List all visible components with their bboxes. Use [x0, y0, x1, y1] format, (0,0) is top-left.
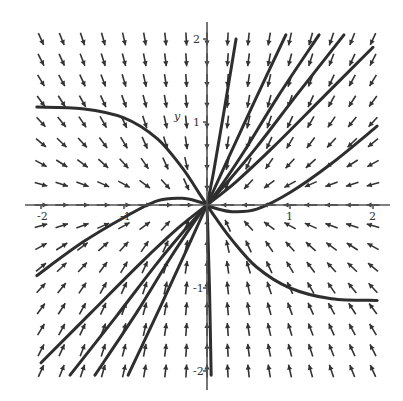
field-arrow-icon — [307, 262, 315, 272]
field-arrow-icon — [370, 54, 376, 66]
field-arrow-icon — [369, 303, 377, 314]
field-arrow-icon — [38, 54, 44, 66]
field-arrow-icon — [101, 344, 106, 356]
field-arrow-icon — [329, 365, 334, 377]
field-arrow-icon — [163, 323, 168, 336]
field-arrow-icon — [143, 116, 148, 128]
field-arrow-icon — [368, 139, 378, 147]
field-arrow-icon — [76, 223, 88, 228]
x-tick-label: 1 — [286, 210, 293, 223]
field-arrow-icon — [184, 344, 189, 357]
field-arrow-icon — [99, 262, 107, 272]
field-arrow-icon — [122, 344, 127, 357]
field-arrow-icon — [77, 160, 87, 168]
field-arrow-icon — [56, 160, 67, 167]
field-arrow-icon — [163, 95, 168, 108]
field-arrow-icon — [347, 160, 358, 167]
field-arrow-icon — [121, 282, 127, 294]
field-arrow-icon — [308, 303, 314, 315]
field-arrow-icon — [287, 137, 294, 148]
field-arrow-icon — [79, 96, 85, 107]
field-arrow-icon — [287, 365, 292, 378]
field-arrow-icon — [59, 33, 64, 45]
field-arrow-icon — [370, 324, 377, 335]
field-arrow-icon — [35, 182, 48, 187]
field-arrow-icon — [98, 159, 108, 168]
y-tick-label: 1 — [193, 116, 200, 129]
field-arrow-icon — [122, 53, 127, 66]
field-arrow-icon — [328, 303, 334, 314]
field-arrow-icon — [367, 243, 378, 249]
field-arrow-icon — [97, 182, 109, 188]
field-arrow-icon — [286, 242, 295, 252]
x-tick-label: -2 — [37, 210, 48, 223]
field-arrow-icon — [225, 302, 230, 315]
field-arrow-icon — [329, 324, 335, 336]
field-arrow-icon — [308, 95, 314, 107]
field-arrow-icon — [35, 243, 46, 249]
field-arrow-icon — [244, 221, 253, 231]
field-arrow-icon — [308, 54, 313, 66]
field-arrow-icon — [308, 365, 313, 378]
field-arrow-icon — [349, 96, 356, 107]
field-arrow-icon — [287, 262, 294, 273]
field-arrow-icon — [246, 53, 251, 66]
field-arrow-icon — [161, 221, 170, 231]
field-arrow-icon — [225, 136, 230, 149]
field-arrow-icon — [305, 223, 317, 229]
field-arrow-icon — [327, 138, 336, 148]
field-arrow-icon — [328, 117, 335, 128]
field-arrow-icon — [59, 324, 65, 335]
field-arrow-icon — [38, 344, 44, 356]
field-arrow-icon — [346, 182, 358, 187]
field-arrow-icon — [184, 282, 189, 295]
field-arrow-icon — [349, 33, 354, 45]
field-arrow-icon — [266, 137, 272, 149]
field-arrow-icon — [140, 180, 150, 188]
field-arrow-icon — [37, 117, 46, 127]
field-arrow-icon — [246, 282, 251, 295]
field-arrow-icon — [349, 75, 355, 86]
field-arrow-icon — [266, 323, 271, 336]
field-arrow-icon — [184, 95, 189, 108]
field-arrow-icon — [287, 323, 292, 335]
field-arrow-icon — [246, 261, 251, 273]
field-arrow-icon — [143, 282, 148, 294]
field-arrow-icon — [80, 33, 85, 45]
field-arrow-icon — [38, 75, 45, 86]
field-arrow-icon — [35, 160, 46, 166]
field-arrow-icon — [37, 283, 46, 293]
field-arrow-icon — [306, 159, 316, 168]
field-arrow-icon — [118, 181, 129, 187]
field-arrow-icon — [56, 182, 68, 187]
field-arrow-icon — [225, 323, 230, 336]
field-arrow-icon — [80, 54, 85, 66]
field-arrow-icon — [370, 33, 376, 45]
field-arrow-icon — [80, 324, 86, 336]
field-arrow-icon — [349, 344, 355, 356]
trajectory-curve — [207, 35, 286, 205]
field-arrow-icon — [79, 117, 86, 128]
field-arrow-icon — [264, 222, 274, 230]
field-arrow-icon — [266, 302, 271, 315]
field-arrow-icon — [184, 323, 189, 336]
field-arrow-icon — [101, 303, 107, 315]
field-arrow-icon — [59, 344, 65, 356]
field-arrow-icon — [328, 96, 334, 107]
field-arrow-icon — [76, 182, 88, 187]
field-arrow-icon — [284, 181, 295, 187]
field-arrow-icon — [287, 116, 293, 128]
field-arrow-icon — [184, 261, 189, 274]
field-arrow-icon — [163, 158, 169, 170]
field-arrow-icon — [325, 182, 337, 187]
field-arrow-icon — [266, 241, 273, 252]
field-arrow-icon — [101, 95, 107, 107]
field-arrow-icon — [142, 365, 147, 378]
field-arrow-icon — [308, 344, 313, 356]
field-arrow-icon — [346, 223, 358, 228]
field-arrow-icon — [38, 365, 44, 377]
field-arrow-icon — [246, 323, 251, 336]
field-arrow-icon — [100, 282, 106, 293]
field-arrow-icon — [246, 33, 251, 46]
field-arrow-icon — [287, 344, 292, 357]
